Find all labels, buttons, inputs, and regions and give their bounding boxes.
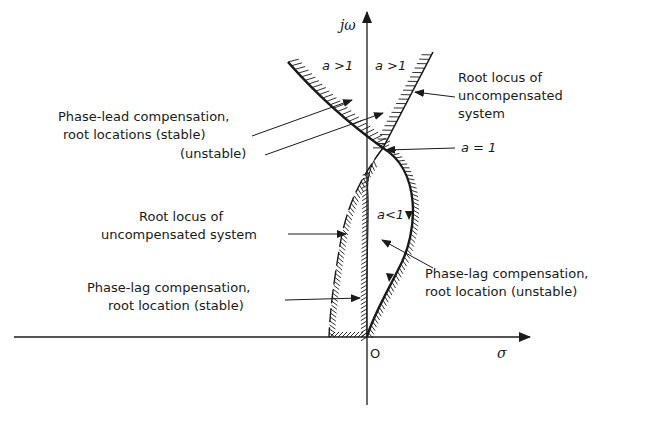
hatch-tick [410, 238, 415, 243]
phase-lead-label-line3: (unstable) [180, 146, 246, 161]
hatch-tick [353, 200, 357, 206]
hatch-tick [361, 321, 367, 325]
hatch-tick [346, 218, 351, 223]
hatch-tick [331, 305, 337, 309]
hatch-tick [326, 98, 336, 102]
hatch-tick [335, 273, 340, 277]
hatch-tick [377, 311, 381, 317]
hatch-tick [334, 285, 339, 289]
hatch-tick [371, 164, 374, 170]
hatch-tick [319, 91, 329, 95]
hatch-tick [399, 268, 403, 274]
phase-lead-label-line1: Phase-lead compensation, [58, 109, 230, 124]
hatch-tick [361, 297, 367, 301]
root-locus-diagram: jω σ O a >1 a >1 a<1 a = 1 Phase-lead co… [0, 0, 646, 423]
hatch-tick [361, 285, 367, 289]
upper-left-locus-branch [288, 62, 383, 148]
region-label-junction: a = 1 [461, 140, 496, 155]
phase-lead-stable-arrow [252, 100, 352, 136]
hatch-tick [332, 301, 338, 305]
hatch-tick [330, 325, 336, 329]
hatch-tick [331, 313, 337, 317]
phase-lag-stable-arrow [285, 298, 360, 300]
hatch-tick [347, 215, 352, 220]
hatch-tick [360, 126, 370, 131]
hatch-tick [333, 289, 338, 293]
hatch-tick [390, 286, 394, 292]
hatch-tick [335, 277, 340, 281]
hatch-tick [368, 132, 378, 137]
hatch-tick [337, 107, 347, 111]
hatch-tick [332, 297, 338, 301]
hatch-tick [298, 70, 309, 73]
hatch-tick [361, 309, 367, 313]
hatch-tick [345, 114, 355, 118]
hatch-tick [334, 281, 339, 285]
hatch-tick [340, 246, 345, 251]
hatch-tick [379, 307, 383, 313]
hatch-tick [339, 254, 344, 259]
hatch-tick [361, 305, 367, 309]
jw-axis-label: jω [337, 17, 356, 33]
root-locus-upper-arrow [415, 92, 455, 97]
hatch-tick [364, 129, 374, 134]
hatch-tick [390, 150, 397, 152]
hatch-tick [288, 59, 299, 62]
hatch-tick [323, 94, 333, 98]
hatch-tick [376, 314, 380, 320]
region-label-upper-left: a >1 [322, 58, 353, 73]
hatch-tick [370, 329, 374, 334]
hatch-tick [374, 318, 378, 324]
hatch-tick [330, 321, 336, 325]
hatch-tick [344, 226, 349, 231]
hatch-tick [398, 160, 405, 161]
hatch-tick [361, 317, 367, 321]
hatch-tick [397, 271, 401, 277]
hatch-tick [356, 192, 360, 198]
hatch-tick [333, 293, 339, 297]
sigma-axis-label: σ [497, 345, 507, 361]
hatch-tick [371, 325, 375, 331]
phase-lag-stable-line2: root location (stable) [108, 298, 244, 313]
phase-lag-unstable-line1: Phase-lag compensation, [425, 266, 589, 281]
hatch-tick [401, 264, 405, 270]
hatch-tick [396, 275, 400, 281]
root-locus-lower-line1: Root locus of [139, 209, 223, 224]
hatch-tick [409, 242, 414, 247]
region-label-upper-right: a >1 [375, 58, 406, 73]
hatch-tick [361, 325, 367, 329]
hatch-tick [408, 246, 413, 251]
hatch-tick [308, 81, 318, 84]
hatch-tick [349, 117, 359, 121]
phase-lead-label-line2: root locations (stable) [63, 127, 206, 142]
hatch-tick [337, 265, 342, 269]
root-locus-upper-line1: Root locus of [458, 70, 542, 85]
left-curve-hatching [329, 161, 376, 337]
hatch-tick [315, 88, 325, 92]
hatch-tick [388, 289, 392, 295]
root-locus-upper-line3: system [458, 106, 505, 121]
hatch-tick [331, 309, 337, 313]
hatch-tick [341, 242, 346, 247]
hatch-tick [342, 234, 347, 239]
hatch-tick [385, 296, 389, 302]
hatch-tick [374, 161, 377, 167]
hatch-tick [361, 301, 367, 305]
hatch-tick [341, 111, 351, 115]
hatch-tick [361, 269, 367, 273]
hatch-tick [361, 265, 367, 268]
hatch-tick [372, 321, 376, 327]
right-curve-hatching [368, 145, 419, 338]
hatch-tick [341, 238, 346, 243]
phase-lag-unstable-locus [367, 148, 413, 337]
hatch-tick [394, 278, 398, 284]
hatch-tick [386, 293, 390, 299]
hatch-tick [350, 207, 354, 212]
hatch-tick [358, 189, 362, 195]
hatch-tick [305, 77, 316, 80]
hatch-tick [404, 257, 408, 263]
hatch-tick [361, 293, 367, 297]
hatch-tick [392, 282, 396, 288]
hatch-tick [361, 273, 367, 277]
hatch-tick [395, 157, 402, 158]
